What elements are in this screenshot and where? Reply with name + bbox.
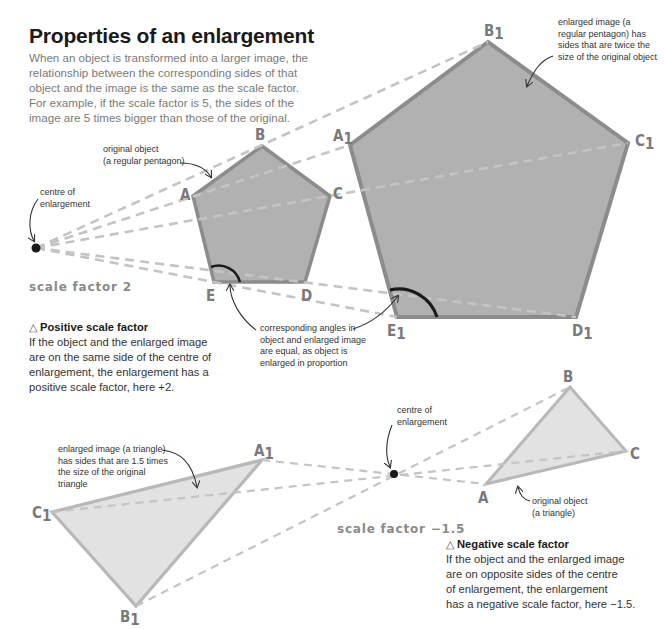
enlarged-pentagon [350,42,628,317]
page-title: Properties of an enlargement [29,24,314,48]
intro-paragraph: When an object is transformed into a lar… [29,50,314,125]
arrow-original-triangle [518,487,530,501]
svg-text:A1: A1 [254,442,274,463]
original-triangle [486,387,626,484]
positive-box-heading: Positive scale factor [40,321,148,333]
scale-factor-negative-label: scale factor −1.5 [337,522,465,536]
scale-factor-positive-label: scale factor 2 [29,280,132,294]
arrow-centre-positive [30,199,38,241]
negative-scale-factor-box: △Negative scale factor If the object and… [446,537,661,612]
svg-text:B1: B1 [484,22,504,43]
svg-text:E1: E1 [387,322,406,343]
svg-text:B: B [563,368,573,386]
svg-text:C1: C1 [635,132,654,153]
corresponding-angles-label: corresponding angles in object and enlar… [260,323,366,369]
svg-text:D1: D1 [572,322,593,343]
svg-text:A1: A1 [333,127,353,148]
centre-label-negative: centre of enlargement [397,405,447,428]
svg-text:B1: B1 [120,608,140,629]
centre-point-positive [32,244,41,253]
svg-text:C: C [333,185,343,203]
svg-text:D: D [301,287,312,305]
svg-text:C: C [630,445,640,463]
original-pentagon-label: original object (a regular pentagon) [103,144,185,167]
arrow-angle-small [230,285,256,330]
svg-text:E: E [206,287,215,305]
svg-text:C1: C1 [32,504,51,525]
svg-text:A: A [478,489,489,507]
original-triangle-label: original object (a triangle) [532,496,588,519]
enlarged-triangle-label: enlarged image (a triangle) has sides th… [58,444,168,490]
triangle-icon: △ [29,321,37,333]
enlarged-pentagon-label: enlarged image (a regular pentagon) has … [558,17,657,63]
triangle-icon: △ [446,538,454,550]
svg-text:A: A [180,186,191,204]
arrow-centre-negative [387,425,392,467]
centre-label-positive: centre of enlargement [40,187,90,210]
centre-point-negative [390,470,398,478]
negative-box-heading: Negative scale factor [457,538,569,550]
svg-text:B: B [255,126,265,144]
positive-scale-factor-box: △Positive scale factor If the object and… [29,320,229,395]
